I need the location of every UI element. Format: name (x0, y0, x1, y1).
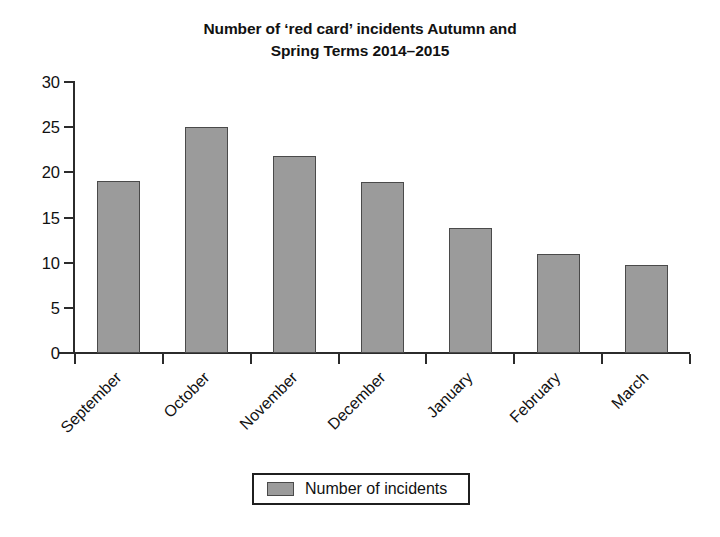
x-axis-label-october: October (59, 369, 213, 523)
y-tick-25 (64, 126, 75, 128)
x-axis-label-september: September (0, 369, 125, 523)
bar-october (185, 127, 228, 353)
x-tick-3 (338, 354, 340, 364)
y-tick-label-15: 15 (24, 208, 60, 227)
x-tick-2 (250, 354, 252, 364)
y-tick-10 (64, 262, 75, 264)
y-tick-label-5: 5 (24, 298, 60, 317)
bar-january (449, 228, 492, 353)
bar-november (273, 156, 316, 353)
bar-chart: Number of ‘red card’ incidents Autumn an… (0, 0, 720, 537)
legend-swatch-number-of-incidents (267, 482, 294, 496)
y-tick-label-0: 0 (24, 344, 60, 363)
x-tick-4 (425, 354, 427, 364)
x-tick-1 (162, 354, 164, 364)
bar-december (361, 182, 404, 353)
y-tick-15 (64, 217, 75, 219)
x-tick-5 (513, 354, 515, 364)
x-tick-6 (601, 354, 603, 364)
y-tick-label-25: 25 (24, 118, 60, 137)
plot-area: 051015202530 SeptemberOctoberNovemberDec… (0, 0, 720, 537)
y-tick-30 (64, 81, 75, 83)
y-tick-label-30: 30 (24, 73, 60, 92)
y-tick-5 (64, 307, 75, 309)
y-tick-label-10: 10 (24, 253, 60, 272)
y-tick-20 (64, 171, 75, 173)
chart-legend: Number of incidents (252, 473, 470, 505)
bar-february (537, 254, 580, 353)
x-tick-7 (689, 354, 691, 364)
x-axis-label-march: March (498, 369, 652, 523)
bar-march (625, 265, 668, 353)
y-tick-label-20: 20 (24, 163, 60, 182)
bar-september (97, 181, 140, 353)
x-tick-0 (74, 354, 76, 364)
legend-label-number-of-incidents: Number of incidents (305, 480, 447, 498)
